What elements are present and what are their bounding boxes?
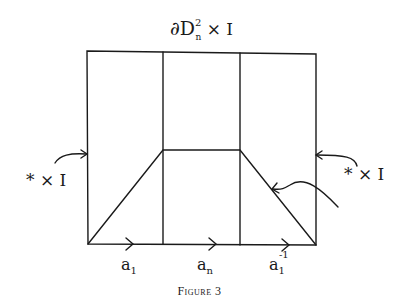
top-label: ∂D2n × I: [170, 17, 233, 42]
figure-caption: Figure 3: [0, 284, 399, 299]
trapezoid: [88, 150, 316, 245]
outer-rectangle: [87, 51, 316, 245]
right-label: * × I: [344, 164, 384, 184]
label-an: an: [197, 255, 214, 276]
diagram: ∂D2n × I * × I * × I a1 an a1-1: [0, 0, 399, 305]
label-a1-inverse: a1-1: [269, 249, 289, 276]
left-label: * × I: [26, 170, 66, 190]
label-a1: a1: [121, 255, 137, 276]
